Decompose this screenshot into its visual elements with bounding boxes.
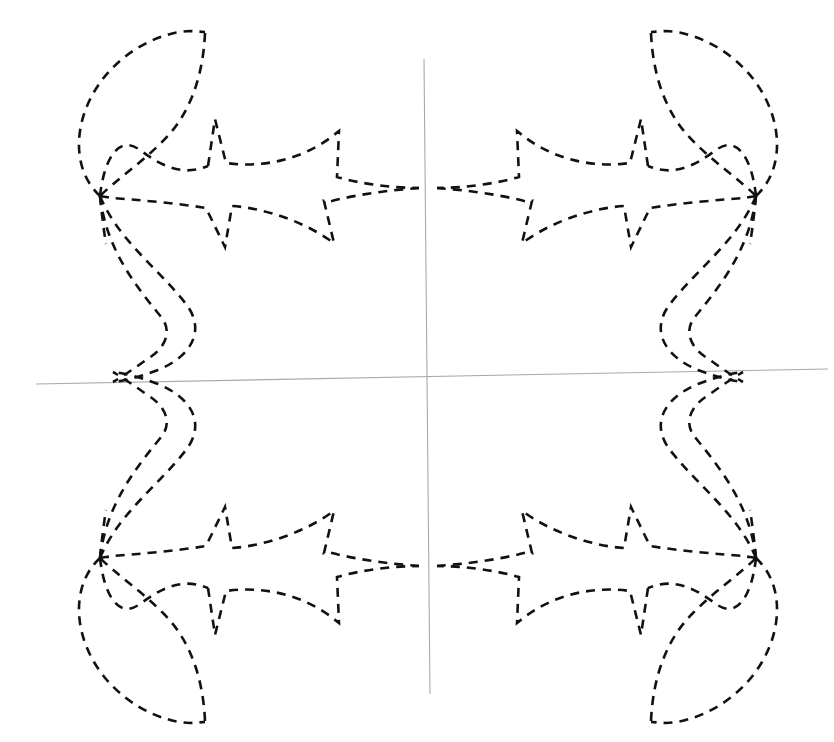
plot-svg	[0, 0, 834, 742]
figure-canvas	[0, 0, 834, 742]
